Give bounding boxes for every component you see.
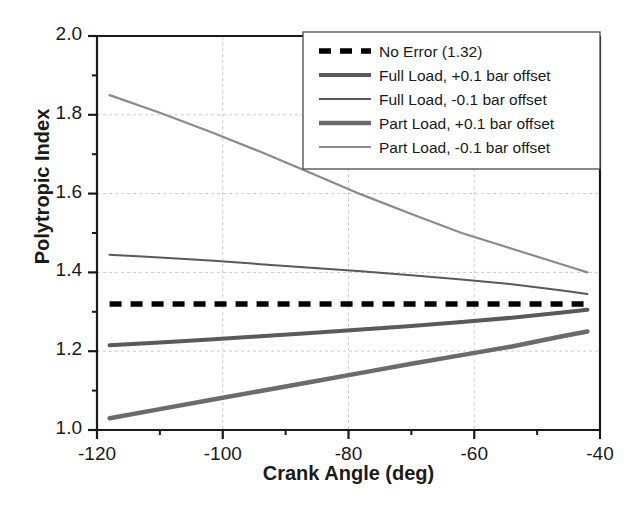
y-tick-label: 1.2: [26, 338, 82, 360]
y-tick-label: 1.6: [26, 181, 82, 203]
legend-label-1: Full Load, +0.1 bar offset: [379, 67, 551, 84]
plot-canvas: No Error (1.32)Full Load, +0.1 bar offse…: [0, 0, 641, 507]
x-tick-label: -80: [314, 443, 384, 465]
series-line-1: [110, 310, 588, 345]
y-tick-label: 2.0: [26, 23, 82, 45]
chart-figure: Polytropic Index Crank Angle (deg) No Er…: [0, 0, 641, 507]
legend-label-3: Part Load, +0.1 bar offset: [379, 115, 555, 132]
legend: No Error (1.32)Full Load, +0.1 bar offse…: [303, 32, 600, 169]
legend-label-2: Full Load, -0.1 bar offset: [379, 91, 547, 108]
x-tick-label: -40: [565, 443, 635, 465]
y-tick-label: 1.4: [26, 259, 82, 281]
y-tick-label: 1.8: [26, 102, 82, 124]
legend-label-4: Part Load, -0.1 bar offset: [379, 139, 551, 156]
legend-label-0: No Error (1.32): [379, 43, 482, 60]
x-tick-label: -60: [439, 443, 509, 465]
x-tick-label: -120: [62, 443, 132, 465]
y-tick-label: 1.0: [26, 417, 82, 439]
x-tick-label: -100: [188, 443, 258, 465]
